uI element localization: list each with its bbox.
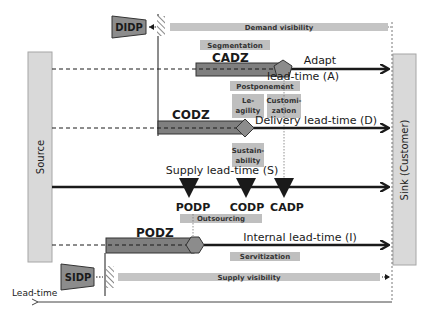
codz-label: CODZ <box>172 108 210 122</box>
delivery-label: Delivery lead-time (D) <box>255 114 377 127</box>
supply-visibility-label: Supply visibility <box>217 274 281 282</box>
internal-label: Internal lead-time (I) <box>243 231 357 244</box>
lead-time-axis-label: Lead-time <box>12 288 58 298</box>
sink-label: Sink (Customer) <box>399 119 410 200</box>
didp-hatch <box>157 16 165 36</box>
postponement-label: Postponement <box>236 83 294 91</box>
supply-label: Supply lead-time (S) <box>166 164 278 177</box>
segmentation-label: Segmentation <box>207 42 262 50</box>
supply-visibility-row: Supply visibility SIDP <box>61 253 390 296</box>
source-box: Source <box>28 52 52 262</box>
didp-point: DIDP <box>112 16 146 38</box>
sink-box: Sink (Customer) <box>393 54 416 265</box>
delivery-lead-time-row: CODZ Delivery lead-time (D) <box>52 108 388 137</box>
codp-label: CODP <box>230 201 265 214</box>
podp-label: PODP <box>176 201 211 214</box>
supply-lead-time-row: Supply lead-time (S) PODP CODP CADP <box>52 164 388 214</box>
outsourcing-label: Outsourcing <box>197 215 245 223</box>
sidp-point: SIDP <box>61 264 94 290</box>
source-label: Source <box>35 140 46 174</box>
sidp-hatch <box>106 266 114 288</box>
lead-time-decoupling-diagram: Source Sink (Customer) Demand visibility… <box>0 0 427 318</box>
cadp-label: CADP <box>270 201 304 214</box>
internal-lead-time-row: PODZ Internal lead-time (I) Servitizatio… <box>52 226 388 261</box>
adapt-label-line1: Adapt <box>304 54 337 67</box>
adapt-lead-time-row: Segmentation CADZ Adapt lead-time (A) <box>52 40 388 83</box>
lead-time-axis: Lead-time <box>12 288 392 302</box>
sidp-label: SIDP <box>65 272 92 283</box>
servitization-label: Servitization <box>240 253 290 261</box>
leagility-label-1: Le- <box>242 97 254 105</box>
demand-visibility-label: Demand visibility <box>245 24 314 32</box>
sustainability-label-1: Sustain- <box>232 147 265 155</box>
didp-label: DIDP <box>115 22 143 33</box>
